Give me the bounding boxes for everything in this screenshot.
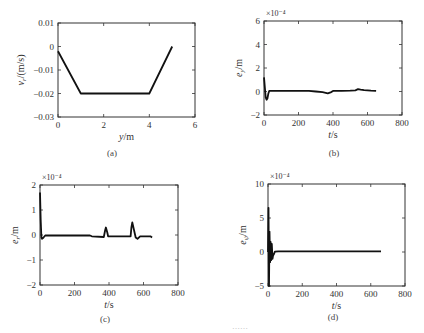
y-tick-label: 0 xyxy=(260,247,265,257)
x-tick-label: 600 xyxy=(364,289,378,299)
data-line-e_psi xyxy=(268,208,381,286)
plot-frame xyxy=(268,184,405,286)
panel-caption-d: (d) xyxy=(313,312,353,322)
chart-panel-d: 02004006008001050−5×10⁻⁴t/seψ/m (d) xyxy=(0,0,424,333)
x-axis-label: t/s xyxy=(332,300,342,311)
x-tick-label: 400 xyxy=(330,289,344,299)
x-tick-label: 800 xyxy=(398,289,412,299)
figure-caption: …… xyxy=(150,322,330,333)
x-tick-label: 0 xyxy=(266,289,271,299)
x-tick-label: 200 xyxy=(296,289,310,299)
chart-d-svg: 02004006008001050−5×10⁻⁴t/seψ/m xyxy=(0,0,424,333)
y-axis-label: eψ/m xyxy=(237,225,250,245)
y-tick-label: 5 xyxy=(260,213,265,223)
y-scale-multiplier: ×10⁻⁴ xyxy=(270,172,290,181)
y-tick-label: 10 xyxy=(255,179,265,189)
y-tick-label: −5 xyxy=(254,281,264,291)
